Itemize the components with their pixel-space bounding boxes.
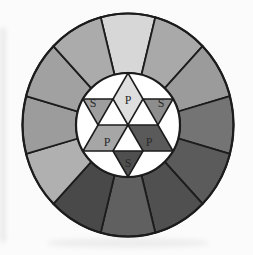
label-secondary-bottom: S (125, 156, 132, 170)
label-primary-lower-left: P (104, 135, 111, 149)
color-wheel-figure: P S S P P S (0, 0, 253, 255)
color-wheel-svg: P S S P P S (0, 0, 253, 255)
label-primary-lower-right: P (146, 135, 153, 149)
bottom-scan-smudge (46, 238, 210, 248)
label-secondary-left: S (90, 96, 97, 110)
label-secondary-right: S (158, 96, 165, 110)
label-primary-top: P (125, 93, 132, 107)
left-edge-scan-artifact (0, 28, 6, 242)
